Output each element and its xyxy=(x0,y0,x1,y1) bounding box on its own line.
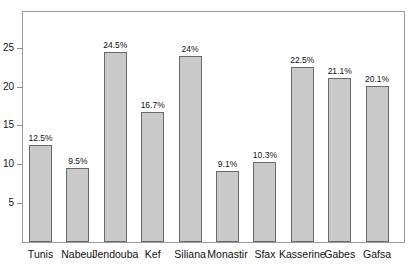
bar[interactable] xyxy=(253,162,276,242)
x-axis-category-label: Kef xyxy=(145,248,161,261)
bars-area: 12.5%9.5%24.5%16.7%24%9.1%10.3%22.5%21.1… xyxy=(23,12,404,242)
bar-value-label: 9.1% xyxy=(218,159,237,169)
bar[interactable] xyxy=(141,112,164,242)
bar[interactable] xyxy=(66,168,89,242)
y-axis-tick-mark xyxy=(17,125,22,126)
bar-group[interactable]: 9.5% xyxy=(66,12,89,242)
bar[interactable] xyxy=(366,86,389,242)
bar-value-label: 20.1% xyxy=(365,74,389,84)
bar-value-label: 9.5% xyxy=(68,156,87,166)
x-axis-category-label: Gabes xyxy=(324,248,355,261)
bar-value-label: 16.7% xyxy=(141,100,165,110)
bar[interactable] xyxy=(291,67,314,242)
y-axis-tick-label: 20 xyxy=(3,80,14,93)
x-axis-category-label: Siliana xyxy=(174,248,206,261)
bar[interactable] xyxy=(104,52,127,242)
bar-value-label: 12.5% xyxy=(28,133,52,143)
y-axis-tick: 20 xyxy=(0,87,22,88)
bar-chart: 510152025 12.5%9.5%24.5%16.7%24%9.1%10.3… xyxy=(0,0,414,269)
x-axis-category-label: Monastir xyxy=(207,248,247,261)
x-axis-category-label: Tunis xyxy=(28,248,53,261)
bar-group[interactable]: 20.1% xyxy=(366,12,389,242)
bar-group[interactable]: 9.1% xyxy=(216,12,239,242)
bar-group[interactable]: 10.3% xyxy=(253,12,276,242)
x-axis-category-label: Sfax xyxy=(254,248,275,261)
bar-group[interactable]: 24% xyxy=(179,12,202,242)
bar-value-label: 22.5% xyxy=(290,55,314,65)
bar-group[interactable]: 12.5% xyxy=(29,12,52,242)
y-axis-tick-mark xyxy=(17,87,22,88)
bar[interactable] xyxy=(328,78,351,242)
bar-value-label: 10.3% xyxy=(253,150,277,160)
bar[interactable] xyxy=(29,145,52,242)
bar-value-label: 24% xyxy=(182,44,199,54)
y-axis-tick-mark xyxy=(17,164,22,165)
y-axis-tick-label: 25 xyxy=(3,41,14,54)
y-axis-tick: 25 xyxy=(0,48,22,49)
y-axis-tick: 5 xyxy=(0,203,22,204)
y-axis-tick-label: 5 xyxy=(8,196,14,209)
bar-group[interactable]: 16.7% xyxy=(141,12,164,242)
x-axis-category-label: Jendouba xyxy=(92,248,138,261)
y-axis-tick: 10 xyxy=(0,164,22,165)
y-axis-tick-label: 10 xyxy=(3,157,14,170)
y-axis-tick-mark xyxy=(17,203,22,204)
y-axis-tick: 15 xyxy=(0,125,22,126)
bar-group[interactable]: 24.5% xyxy=(104,12,127,242)
y-axis-tick-label: 15 xyxy=(3,118,14,131)
bar[interactable] xyxy=(216,171,239,242)
bar-value-label: 24.5% xyxy=(103,40,127,50)
x-axis-category-label: Kasserine xyxy=(279,248,326,261)
x-axis-category-label: Nabeul xyxy=(61,248,94,261)
bar-value-label: 21.1% xyxy=(328,66,352,76)
bar-group[interactable]: 21.1% xyxy=(328,12,351,242)
bar-group[interactable]: 22.5% xyxy=(291,12,314,242)
bar[interactable] xyxy=(179,56,202,242)
y-axis-tick-mark xyxy=(17,48,22,49)
x-axis-category-label: Gafsa xyxy=(363,248,391,261)
